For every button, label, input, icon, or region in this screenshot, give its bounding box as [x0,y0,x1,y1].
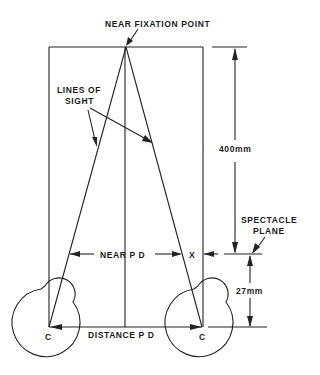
x-marker-label: X [189,250,195,260]
lines-of-sight-label-2: SIGHT [65,96,94,106]
pd-diagram: NEAR FIXATION POINT LINES OF SIGHT 400mm… [0,0,320,375]
lines-of-sight-label-1: LINES OF [57,85,101,95]
near-fixation-point-label: NEAR FIXATION POINT [105,19,210,29]
distance-400mm-label: 400mm [219,144,251,154]
near-pd-label: NEAR P D [100,250,145,260]
left-center-label: C [45,332,52,342]
right-center-label: C [199,332,206,342]
distance-27mm-label: 27mm [236,286,263,296]
distance-pd-label: DISTANCE P D [88,330,154,340]
spectacle-plane-label-1: SPECTACLE [241,215,297,225]
spectacle-plane-label-2: PLANE [253,226,285,236]
near-fixation-pointer [126,29,138,46]
spectacle-plane-pointer [224,237,265,254]
lines-of-sight-pointers [88,108,153,147]
left-eye [12,278,80,357]
